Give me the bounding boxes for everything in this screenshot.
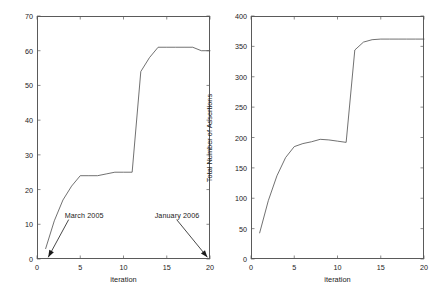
y-tick-label: 400 — [217, 12, 247, 21]
y-tick-label: 150 — [217, 163, 247, 172]
y-tick-label: 10 — [3, 220, 33, 229]
y-tick-label: 0 — [3, 255, 33, 264]
y-tick-label: 300 — [217, 72, 247, 81]
x-tick-label: 20 — [420, 263, 428, 272]
x-tick-label: 10 — [334, 263, 342, 272]
x-tick-label: 15 — [163, 263, 171, 272]
y-tick-label: 200 — [217, 133, 247, 142]
y-tick-label: 60 — [3, 46, 33, 55]
january-2006-annotation: January 2006 — [155, 211, 200, 220]
x-axis-label-iteration: iteration — [110, 275, 136, 284]
x-tick-label: 20 — [206, 263, 214, 272]
y-tick-label: 20 — [3, 185, 33, 194]
x-axis-label-iteration: iteration — [324, 275, 350, 284]
y-tick-label: 40 — [3, 116, 33, 125]
y-tick-label: 50 — [217, 224, 247, 233]
figure-two-line-charts: Total Number of Test Cases iteration 010… — [0, 0, 431, 303]
march-2005-annotation: March 2005 — [65, 211, 104, 220]
y-tick-label: 30 — [3, 150, 33, 159]
assertions-line-svg — [216, 0, 431, 303]
y-tick-label: 100 — [217, 194, 247, 203]
x-tick-label: 5 — [78, 263, 82, 272]
y-axis-label-assertions: Total Number of Assertions — [205, 93, 214, 181]
y-tick-label: 250 — [217, 103, 247, 112]
x-tick-label: 0 — [35, 263, 39, 272]
x-tick-label: 10 — [120, 263, 128, 272]
y-tick-label: 70 — [3, 12, 33, 21]
y-tick-label: 0 — [217, 255, 247, 264]
test-cases-panel: Total Number of Test Cases iteration 010… — [0, 0, 215, 303]
y-tick-label: 350 — [217, 42, 247, 51]
x-tick-label: 5 — [292, 263, 296, 272]
assertions-panel: Total Number of Assertions iteration 050… — [216, 0, 431, 303]
x-tick-label: 15 — [377, 263, 385, 272]
y-tick-label: 50 — [3, 81, 33, 90]
x-tick-label: 0 — [249, 263, 253, 272]
